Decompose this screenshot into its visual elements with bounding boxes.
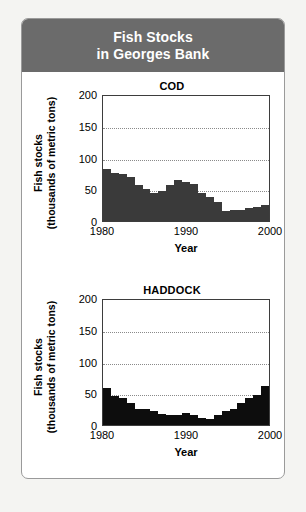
card-title-line-1: Fish Stocks <box>113 29 193 46</box>
bar-1991 <box>190 415 198 425</box>
y-axis-label-line-2: (thousands of metric tons) <box>45 297 58 437</box>
y-tick-200: 200 <box>79 293 97 305</box>
bar-1993 <box>206 419 214 425</box>
y-axis-label-line-2: (thousands of metric tons) <box>45 93 58 233</box>
chart-haddock-series <box>103 300 269 425</box>
chart-cod-y-axis-label: Fish stocks (thousands of metric tons) <box>32 93 58 233</box>
bar-1993 <box>206 197 214 221</box>
bar-1998 <box>245 208 253 221</box>
bar-1981 <box>111 173 119 221</box>
chart-haddock-title: HADDOCK <box>22 284 285 296</box>
card-header: Fish Stocks in Georges Bank <box>22 19 284 72</box>
bar-1992 <box>198 193 206 221</box>
bar-1981 <box>111 396 119 425</box>
chart-cod-plot-area <box>102 95 270 222</box>
y-axis-label-line-1: Fish stocks <box>32 134 44 192</box>
bar-1985 <box>143 189 151 221</box>
x-tick-2000: 2000 <box>258 429 282 441</box>
bar-1996 <box>230 210 238 221</box>
x-tick-1990: 1990 <box>174 429 198 441</box>
bar-1989 <box>174 180 182 221</box>
bar-1995 <box>222 411 230 425</box>
bar-1996 <box>230 409 238 426</box>
bar-1999 <box>253 395 261 425</box>
bar-1990 <box>182 413 190 425</box>
bar-1984 <box>135 409 143 426</box>
x-tick-2000: 2000 <box>258 225 282 237</box>
bar-1998 <box>245 398 253 425</box>
bar-1987 <box>158 191 166 221</box>
chart-cod-title: COD <box>22 80 285 92</box>
bar-1994 <box>214 202 222 221</box>
bar-1999 <box>253 207 261 221</box>
y-tick-50: 50 <box>85 388 97 400</box>
y-tick-200: 200 <box>79 89 97 101</box>
y-tick-150: 150 <box>79 325 97 337</box>
y-tick-100: 100 <box>79 153 97 165</box>
bar-1983 <box>127 403 135 425</box>
bar-1995 <box>222 211 230 221</box>
bar-1985 <box>143 409 151 425</box>
card-title-line-2: in Georges Bank <box>97 46 210 63</box>
bar-1984 <box>135 185 143 221</box>
x-tick-1990: 1990 <box>174 225 198 237</box>
y-tick-100: 100 <box>79 357 97 369</box>
screenshot-root: Fish Stocks in Georges Bank COD Fish sto… <box>0 0 306 512</box>
bar-1990 <box>182 182 190 221</box>
bar-1980 <box>103 388 111 425</box>
x-tick-1980: 1980 <box>90 429 114 441</box>
chart-cod-series <box>103 96 269 221</box>
bar-1997 <box>237 210 245 221</box>
chart-cod: COD Fish stocks (thousands of metric ton… <box>22 72 285 276</box>
bar-1991 <box>190 184 198 221</box>
bar-2000 <box>261 205 269 221</box>
chart-haddock-plot-area <box>102 299 270 426</box>
y-tick-150: 150 <box>79 121 97 133</box>
bar-1989 <box>174 415 182 425</box>
chart-haddock-y-axis-label: Fish stocks (thousands of metric tons) <box>32 297 58 437</box>
bar-1986 <box>150 193 158 221</box>
chart-haddock: HADDOCK Fish stocks (thousands of metric… <box>22 276 285 479</box>
bar-1986 <box>150 411 158 425</box>
chart-cod-x-axis-label: Year <box>102 242 270 254</box>
bar-1987 <box>158 414 166 425</box>
bar-1980 <box>103 169 111 221</box>
x-tick-1980: 1980 <box>90 225 114 237</box>
bar-1997 <box>237 403 245 425</box>
bar-1983 <box>127 177 135 221</box>
y-tick-50: 50 <box>85 184 97 196</box>
bar-1992 <box>198 418 206 425</box>
chart-haddock-x-axis-label: Year <box>102 446 270 458</box>
bar-1982 <box>119 174 127 221</box>
bar-2000 <box>261 386 269 425</box>
bar-1988 <box>166 415 174 425</box>
fish-stocks-card: Fish Stocks in Georges Bank COD Fish sto… <box>21 18 285 479</box>
bar-1994 <box>214 415 222 425</box>
bar-1982 <box>119 398 127 425</box>
bar-1988 <box>166 185 174 221</box>
charts-container: COD Fish stocks (thousands of metric ton… <box>22 72 284 479</box>
y-axis-label-line-1: Fish stocks <box>32 338 44 396</box>
